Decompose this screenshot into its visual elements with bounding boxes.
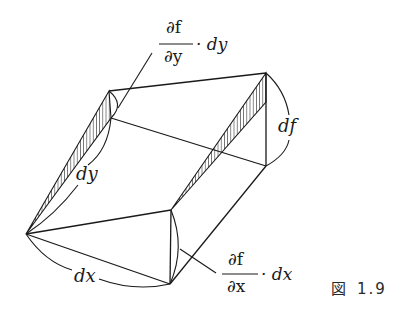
label-dfdx-multiplier: · dx xyxy=(261,264,293,284)
label-dfdy-multiplier: · dy xyxy=(196,34,228,54)
arc-df-lower xyxy=(266,140,289,166)
label-dy: dy xyxy=(76,163,99,184)
left-hatched-strip xyxy=(26,91,111,234)
figure-caption-number: 1.9 xyxy=(357,280,387,298)
label-dfdy-denominator: ∂y xyxy=(164,46,183,66)
figure-caption-prefix: 図 xyxy=(331,280,346,298)
edge-vertical-mid xyxy=(170,210,171,284)
label-dfdx-denominator: ∂x xyxy=(227,276,246,296)
label-dfdx-numerator: ∂f xyxy=(228,249,245,269)
label-df: df xyxy=(278,115,300,136)
arc-df-upper xyxy=(266,73,289,115)
edge-top xyxy=(109,73,266,91)
label-dfdy-numerator: ∂f xyxy=(166,17,183,37)
edge-left-to-c xyxy=(26,210,171,234)
label-dx: dx xyxy=(74,265,96,286)
leader-dfdy xyxy=(118,53,152,108)
edge-left-to-b xyxy=(26,234,170,284)
edge-b-to-g xyxy=(170,166,266,284)
differential-diagram: ∂f ∂y · dy dy df dx ∂f ∂x · dx 図 1.9 xyxy=(0,0,413,319)
leader-dfdx xyxy=(180,249,216,273)
arc-dx-left xyxy=(26,234,72,270)
